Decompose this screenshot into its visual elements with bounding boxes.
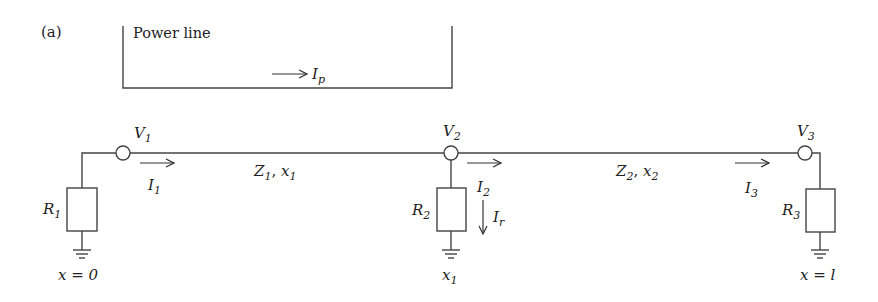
position-xl-label: x = l xyxy=(800,266,836,284)
current-ir-label: Ir xyxy=(492,208,505,229)
node-v3-label: V3 xyxy=(797,122,815,143)
resistor-r1-icon xyxy=(67,188,97,231)
node-v3-icon xyxy=(798,146,812,160)
resistor-r2-icon xyxy=(437,188,466,231)
power-line-label: Power line xyxy=(133,25,211,41)
power-line: Power line Ip xyxy=(123,25,452,88)
node-v1-icon xyxy=(116,146,130,160)
current-i1-label: I1 xyxy=(147,176,161,197)
resistor-r2-label: R2 xyxy=(411,201,430,222)
position-x0-label: x = 0 xyxy=(58,266,99,284)
panel-label: (a) xyxy=(41,23,62,41)
power-line-current-label: Ip xyxy=(311,65,325,86)
resistor-r3: R3 xyxy=(781,189,835,258)
ground-icon xyxy=(811,250,829,258)
node-v2-icon xyxy=(444,146,458,160)
resistor-r1-label: R1 xyxy=(42,200,61,221)
wire-r1-to-v1 xyxy=(82,153,116,188)
ground-icon xyxy=(442,250,460,258)
circuit-diagram: (a) Power line Ip V1 V2 V3 I1 I2 I3 Z1, … xyxy=(0,0,878,302)
wire-v3-to-r3 xyxy=(812,153,820,189)
node-v2-label: V2 xyxy=(443,122,461,143)
position-x1-label: x1 xyxy=(442,266,457,287)
node-v1-label: V1 xyxy=(134,124,152,145)
segment-2-label: Z2, x2 xyxy=(615,162,658,183)
segment-1-label: Z1, x1 xyxy=(253,162,296,183)
current-i2-label: I2 xyxy=(476,178,490,199)
resistor-r3-icon xyxy=(806,189,835,232)
current-i3-label: I3 xyxy=(744,179,758,200)
ground-icon xyxy=(73,250,91,258)
resistor-r3-label: R3 xyxy=(781,201,800,222)
resistor-r1: R1 xyxy=(42,188,97,258)
resistor-r2: R2 Ir xyxy=(411,160,505,258)
